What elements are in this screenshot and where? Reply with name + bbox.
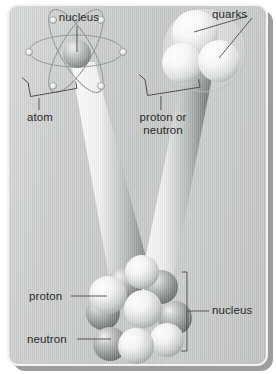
electron (120, 49, 127, 56)
electron (50, 83, 57, 90)
proton-sphere (89, 276, 127, 314)
label-neutron: neutron (27, 333, 67, 346)
electron (98, 83, 105, 90)
proton-sphere (124, 290, 162, 328)
label-proton-or-neutron-line1: proton or (127, 111, 199, 124)
label-atom: atom (27, 111, 53, 124)
label-nucleus-bottom: nucleus (212, 304, 252, 317)
proton-sphere (125, 255, 159, 289)
atom-structure-figure: nucleus quarks atom proton or neutron pr… (0, 0, 276, 374)
diagram-panel: nucleus quarks atom proton or neutron pr… (7, 4, 268, 366)
electron (26, 49, 33, 56)
quark-sphere (162, 43, 202, 83)
proton-sphere (118, 328, 154, 364)
proton-sphere (150, 323, 184, 357)
quark-sphere (198, 40, 240, 82)
label-quarks: quarks (212, 8, 247, 21)
label-proton: proton (29, 290, 62, 303)
label-nucleus-top: nucleus (51, 11, 107, 24)
label-proton-or-neutron-line2: neutron (127, 124, 199, 137)
nucleus-cluster-illustration (71, 255, 209, 364)
